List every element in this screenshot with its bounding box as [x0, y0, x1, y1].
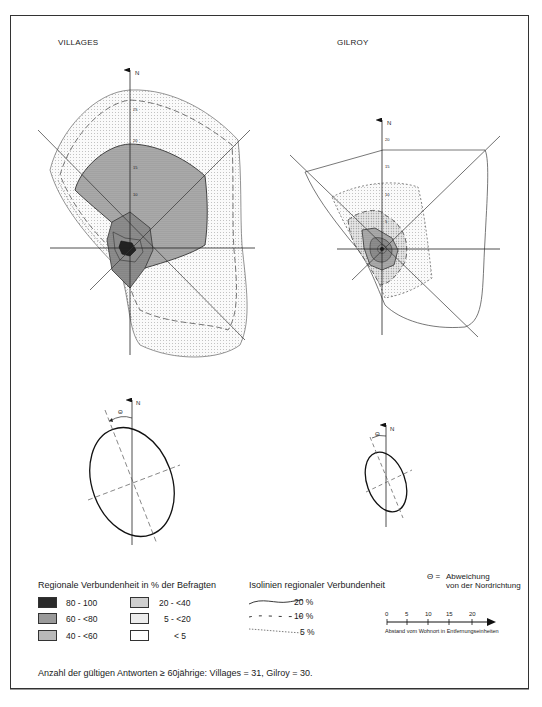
villages-ellipse-diagram [75, 400, 188, 548]
scale-tick-10: 10 [425, 611, 432, 617]
villages-ellipse-north-label: N [136, 400, 140, 406]
gilroy-tick: 5 [385, 219, 387, 224]
shading-legend-title: Regionale Verbundenheit in % der Befragt… [38, 580, 216, 590]
swatch-under-5 [130, 630, 149, 641]
villages-tick: 10 [133, 192, 137, 197]
gilroy-north-label: N [387, 120, 391, 126]
isoline-label-10: 10 % [294, 611, 313, 621]
gilroy-ellipse-north-label: N [390, 426, 394, 432]
villages-diagram [38, 70, 255, 357]
legend-label-40-60: 40 - <60 [66, 631, 97, 641]
isoline-label-20: 20 % [294, 597, 313, 607]
gilroy-tick: 10 [385, 192, 389, 197]
swatch-20-40 [130, 597, 149, 608]
gilroy-tick: 20 [385, 137, 389, 142]
footnote: Anzahl der gültigen Antworten ≥ 60jährig… [38, 668, 312, 678]
villages-north-label: N [135, 70, 139, 76]
gilroy-tick: 15 [385, 164, 389, 169]
villages-tick: 25 [133, 107, 137, 112]
villages-tick: 20 [133, 138, 137, 143]
scale-tick-15: 15 [446, 611, 453, 617]
scale-tick-5: 5 [405, 611, 408, 617]
isoline-legend-title: Isolinien regionaler Verbundenheit [249, 580, 385, 590]
villages-theta-label: Θ [118, 409, 123, 415]
gilroy-diagram [290, 120, 500, 337]
legend-label-under-5: < 5 [174, 631, 186, 641]
legend-label-20-40: 20 - <40 [159, 598, 190, 608]
legend-label-60-80: 60 - <80 [66, 614, 97, 624]
swatch-5-20 [130, 613, 149, 624]
isoline-label-5: 5 % [300, 627, 315, 637]
legend-label-80-100: 80 - 100 [66, 598, 97, 608]
distance-scale-bar [387, 618, 496, 626]
theta-symbol: Θ = [427, 572, 440, 582]
swatch-80-100 [38, 597, 57, 608]
swatch-40-60 [38, 630, 57, 641]
scale-tick-20: 20 [469, 611, 476, 617]
gilroy-ellipse-diagram [358, 425, 415, 527]
gilroy-theta-label: Θ [375, 431, 380, 437]
legend-label-5-20: 5 - <20 [164, 614, 191, 624]
theta-line2: von der Nordrichtung [446, 581, 521, 591]
villages-tick: 15 [133, 165, 137, 170]
scale-tick-0: 0 [385, 611, 388, 617]
scale-caption: Abstand vom Wohnort in Entfernungseinhei… [385, 628, 499, 634]
swatch-60-80 [38, 613, 57, 624]
